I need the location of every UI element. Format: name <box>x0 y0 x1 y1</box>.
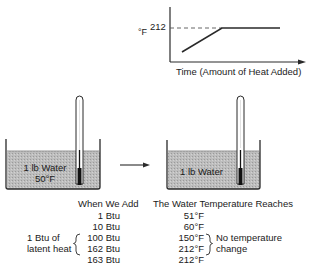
temp-row: 60°F <box>170 221 204 232</box>
heat-row: 1 Btu <box>80 210 120 221</box>
no-change-note: No temperature change <box>216 232 282 254</box>
col-header-temp-reaches: The Water Temperature Reaches <box>153 198 293 209</box>
left-beaker-mass: 1 lb Water <box>17 162 73 173</box>
left-thermometer <box>76 96 83 185</box>
left-mercury <box>78 168 82 185</box>
right-mercury <box>239 168 243 185</box>
no-change-note-line2: change <box>216 243 282 254</box>
x-axis-arrowhead <box>298 60 306 65</box>
latent-heat-note: 1 Btu of latent heat <box>27 232 71 254</box>
right-thermometer <box>237 96 244 185</box>
temp-row: 51°F <box>170 210 204 221</box>
y-axis-tick-212: 212 <box>150 21 166 32</box>
latent-heat-note-line2: latent heat <box>27 243 71 254</box>
temperature-curve <box>182 28 280 52</box>
col-header-when-we-add: When We Add <box>78 198 139 209</box>
no-change-note-line1: No temperature <box>216 232 282 243</box>
temp-row: 212°F <box>170 243 204 254</box>
temp-row: 212°F <box>170 254 204 265</box>
y-axis-unit-label: °F <box>138 27 147 38</box>
temp-row: 150°F <box>170 232 204 243</box>
temperature-graph <box>170 7 306 65</box>
diagram-graphics <box>0 0 312 266</box>
heat-row: 10 Btu <box>80 221 120 232</box>
x-axis-label: Time (Amount of Heat Added) <box>176 66 301 77</box>
latent-heat-note-line1: 1 Btu of <box>27 232 71 243</box>
transition-arrow-icon <box>120 163 150 168</box>
left-beaker-label: 1 lb Water 50°F <box>17 162 73 184</box>
heat-added-column: 1 Btu 10 Btu 100 Btu 162 Btu 163 Btu <box>80 210 120 265</box>
heat-row: 163 Btu <box>80 254 120 265</box>
right-beaker-label: 1 lb Water <box>180 166 223 177</box>
temperature-column: 51°F 60°F 150°F 212°F 212°F <box>170 210 204 265</box>
heat-row: 162 Btu <box>80 243 120 254</box>
right-brace <box>206 234 213 255</box>
heat-row: 100 Btu <box>80 232 120 243</box>
left-beaker-temp: 50°F <box>17 173 73 184</box>
